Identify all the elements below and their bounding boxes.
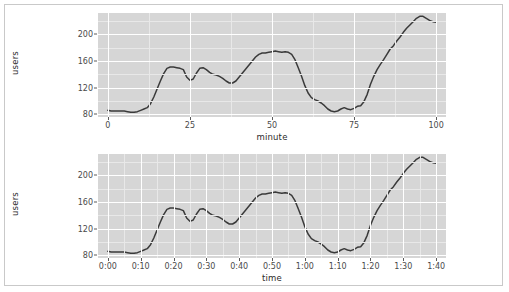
y-axis-label-wrap-top: users — [31, 13, 45, 117]
grid-major-vertical — [190, 13, 191, 117]
y-tick-label-top: 80 — [83, 110, 93, 119]
x-tick-mark — [108, 117, 109, 120]
x-tick-mark — [272, 258, 273, 261]
y-axis-ticks-top: 80120160200 — [45, 5, 93, 146]
grid-major-vertical — [305, 154, 306, 258]
x-tick-label-bottom: 1:00 — [296, 262, 314, 271]
y-tick-label-top: 120 — [78, 83, 93, 92]
figure-frame: users 80120160200 minute 0255075100 user… — [4, 4, 503, 286]
y-tick-label-bottom: 160 — [78, 198, 93, 207]
plot-area-top — [98, 13, 446, 117]
grid-minor-vertical — [321, 154, 322, 258]
grid-major-vertical — [436, 154, 437, 258]
x-axis-label-bottom: time — [98, 273, 446, 283]
y-axis-label-wrap-bottom: users — [31, 154, 45, 258]
y-tick-mark — [94, 175, 97, 176]
x-tick-label-top: 0 — [105, 121, 110, 130]
x-tick-label-bottom: 0:20 — [165, 262, 183, 271]
grid-minor-vertical — [354, 154, 355, 258]
y-tick-mark — [94, 255, 97, 256]
y-tick-mark — [94, 228, 97, 229]
x-tick-label-top: 100 — [429, 121, 444, 130]
x-tick-mark — [206, 258, 207, 261]
x-tick-mark — [436, 117, 437, 120]
grid-major-vertical — [174, 154, 175, 258]
grid-major-vertical — [108, 154, 109, 258]
x-tick-label-bottom: 0:40 — [230, 262, 248, 271]
x-tick-label-bottom: 0:30 — [197, 262, 215, 271]
grid-major-vertical — [272, 154, 273, 258]
grid-major-vertical — [272, 13, 273, 117]
grid-minor-vertical — [157, 154, 158, 258]
x-tick-label-bottom: 1:20 — [362, 262, 380, 271]
x-tick-label-top: 75 — [349, 121, 359, 130]
x-tick-mark — [305, 258, 306, 261]
x-tick-mark — [174, 258, 175, 261]
x-tick-mark — [354, 117, 355, 120]
grid-minor-vertical — [256, 154, 257, 258]
grid-major-vertical — [338, 154, 339, 258]
grid-major-vertical — [370, 154, 371, 258]
grid-major-vertical — [403, 154, 404, 258]
grid-minor-vertical — [190, 154, 191, 258]
x-tick-label-bottom: 0:10 — [132, 262, 150, 271]
x-tick-label-top: 25 — [185, 121, 195, 130]
grid-major-vertical — [354, 13, 355, 117]
y-tick-label-bottom: 80 — [83, 251, 93, 260]
y-tick-mark — [94, 114, 97, 115]
x-tick-mark — [272, 117, 273, 120]
x-tick-label-bottom: 0:50 — [263, 262, 281, 271]
x-tick-label-bottom: 1:10 — [329, 262, 347, 271]
grid-major-vertical — [141, 154, 142, 258]
grid-minor-vertical — [387, 154, 388, 258]
x-tick-mark — [108, 258, 109, 261]
grid-minor-vertical — [288, 154, 289, 258]
grid-minor-vertical — [395, 13, 396, 117]
x-tick-mark — [190, 117, 191, 120]
grid-major-vertical — [108, 13, 109, 117]
grid-minor-vertical — [124, 154, 125, 258]
x-tick-mark — [239, 258, 240, 261]
y-tick-label-bottom: 200 — [78, 171, 93, 180]
x-tick-label-bottom: 0:00 — [99, 262, 117, 271]
plot-area-bottom — [98, 154, 446, 258]
y-tick-mark — [94, 61, 97, 62]
grid-minor-vertical — [313, 13, 314, 117]
grid-major-vertical — [239, 154, 240, 258]
x-tick-label-top: 50 — [267, 121, 277, 130]
x-tick-mark — [338, 258, 339, 261]
grid-minor-vertical — [420, 154, 421, 258]
grid-major-vertical — [436, 13, 437, 117]
x-tick-label-bottom: 1:30 — [394, 262, 412, 271]
x-tick-mark — [403, 258, 404, 261]
grid-minor-vertical — [149, 13, 150, 117]
y-tick-mark — [94, 34, 97, 35]
x-axis-label-top: minute — [98, 132, 446, 142]
x-tick-mark — [436, 258, 437, 261]
y-axis-label-bottom: users — [10, 164, 20, 244]
x-tick-label-bottom: 1:40 — [427, 262, 445, 271]
x-tick-mark — [370, 258, 371, 261]
chart-panel-minute: users 80120160200 minute 0255075100 — [5, 5, 504, 146]
y-axis-ticks-bottom: 80120160200 — [45, 146, 93, 287]
y-tick-mark — [94, 202, 97, 203]
chart-panel-time: users 80120160200 time 0:000:100:200:300… — [5, 146, 504, 287]
y-axis-label-top: users — [10, 23, 20, 103]
grid-minor-vertical — [231, 13, 232, 117]
grid-major-vertical — [206, 154, 207, 258]
x-tick-mark — [141, 258, 142, 261]
y-tick-mark — [94, 87, 97, 88]
y-tick-label-top: 200 — [78, 30, 93, 39]
grid-minor-vertical — [223, 154, 224, 258]
y-tick-label-bottom: 120 — [78, 224, 93, 233]
y-tick-label-top: 160 — [78, 57, 93, 66]
